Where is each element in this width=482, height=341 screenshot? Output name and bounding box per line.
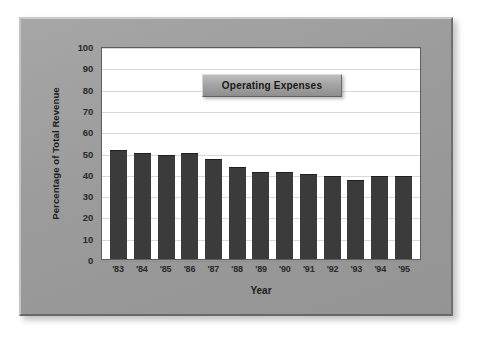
bar-slot	[107, 48, 131, 259]
figure-root: Percentage of Total Revenue 100908070605…	[0, 0, 482, 341]
y-axis-tick-label: 90	[83, 63, 93, 74]
y-axis-tick-label: 10	[83, 233, 93, 244]
bar	[324, 176, 341, 259]
y-axis-title: Percentage of Total Revenue	[47, 47, 63, 260]
y-axis-tick-label: 20	[83, 212, 93, 223]
x-axis-tick-labels: '83'84'85'86'87'88'89'90'91'92'93'94'95	[101, 264, 421, 278]
bar-slot	[154, 48, 178, 259]
bar	[134, 153, 151, 260]
bar	[300, 174, 317, 259]
y-axis-tick-label: 0	[88, 255, 93, 266]
x-axis-tick-label: '84	[130, 264, 154, 278]
chart-title-label: Operating Expenses	[222, 80, 322, 91]
bar	[229, 167, 246, 259]
bar	[205, 159, 222, 259]
x-axis-tick-label: '83	[106, 264, 130, 278]
x-axis-tick-label: '92	[321, 264, 345, 278]
bar	[371, 176, 388, 259]
y-axis-tick-label: 100	[78, 42, 93, 53]
y-axis-tick-label: 70	[83, 105, 93, 116]
x-axis-tick-label: '88	[225, 264, 249, 278]
x-axis-title: Year	[101, 285, 421, 296]
y-axis-tick-labels: 1009080706050403020100	[65, 47, 97, 260]
bar-slot	[391, 48, 415, 259]
bar	[110, 150, 127, 259]
y-axis-tick-label: 80	[83, 84, 93, 95]
chart-panel: Percentage of Total Revenue 100908070605…	[19, 17, 453, 316]
bar-slot	[131, 48, 155, 259]
bar-slot	[344, 48, 368, 259]
bar	[276, 172, 293, 259]
gridline	[102, 261, 420, 262]
x-axis-tick-label: '95	[392, 264, 416, 278]
x-axis-tick-label: '86	[178, 264, 202, 278]
x-axis-tick-label: '89	[249, 264, 273, 278]
bar	[252, 172, 269, 259]
bar-slot	[368, 48, 392, 259]
bar	[347, 180, 364, 259]
bar	[158, 155, 175, 259]
bar	[395, 176, 412, 259]
bar	[181, 153, 198, 260]
y-axis-tick-label: 60	[83, 127, 93, 138]
bar-slot	[178, 48, 202, 259]
x-axis-tick-label: '85	[154, 264, 178, 278]
x-axis-tick-label: '94	[368, 264, 392, 278]
y-axis-tick-label: 40	[83, 169, 93, 180]
x-axis-tick-label: '87	[201, 264, 225, 278]
x-axis-tick-label: '93	[344, 264, 368, 278]
y-axis-tick-label: 30	[83, 191, 93, 202]
x-axis-tick-label: '91	[297, 264, 321, 278]
chart-title-plate: Operating Expenses	[202, 74, 342, 97]
x-axis-tick-label: '90	[273, 264, 297, 278]
y-axis-tick-label: 50	[83, 148, 93, 159]
